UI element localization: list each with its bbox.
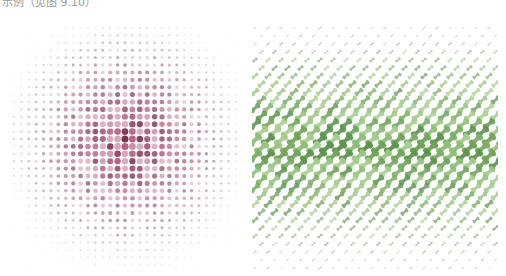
halftone-dot bbox=[235, 138, 237, 140]
bone-tile bbox=[363, 241, 368, 246]
halftone-dot bbox=[35, 160, 38, 163]
bone-tile bbox=[367, 87, 378, 97]
bone-tile bbox=[452, 79, 462, 88]
halftone-dot bbox=[28, 190, 30, 192]
bone-tile bbox=[350, 49, 355, 54]
halftone-dot bbox=[144, 107, 149, 112]
halftone-dot bbox=[174, 129, 179, 134]
bone-tile bbox=[382, 57, 389, 63]
halftone-dot bbox=[27, 160, 30, 163]
bone-tile bbox=[341, 199, 352, 209]
bone-tile bbox=[257, 207, 267, 216]
halftone-dot bbox=[124, 249, 126, 251]
halftone-dot bbox=[94, 34, 96, 36]
halftone-dot bbox=[115, 188, 120, 193]
bone-tile bbox=[460, 57, 467, 63]
halftone-dot bbox=[35, 220, 37, 222]
halftone-dot bbox=[116, 34, 118, 36]
bone-tile bbox=[493, 241, 498, 246]
bone-tile bbox=[296, 79, 306, 88]
bone-tile bbox=[312, 34, 316, 38]
bone-tile bbox=[278, 233, 285, 239]
halftone-dot bbox=[144, 166, 150, 172]
halftone-dot bbox=[85, 114, 90, 119]
halftone-dot bbox=[176, 42, 178, 44]
halftone-dot bbox=[36, 235, 37, 236]
bone-tile bbox=[260, 34, 264, 38]
bone-tile bbox=[383, 26, 387, 30]
halftone-dot bbox=[94, 71, 98, 75]
halftone-dot bbox=[43, 35, 44, 36]
halftone-dot bbox=[13, 160, 15, 162]
halftone-dot bbox=[101, 63, 105, 67]
halftone-dot bbox=[57, 56, 59, 58]
halftone-dot bbox=[42, 93, 45, 96]
halftone-dot bbox=[131, 49, 134, 52]
halftone-dot bbox=[42, 174, 45, 177]
halftone-dot bbox=[205, 145, 209, 149]
bone-tile bbox=[364, 34, 368, 38]
halftone-dot bbox=[138, 41, 141, 44]
halftone-dot bbox=[174, 122, 179, 127]
halftone-dot bbox=[57, 219, 59, 221]
bone-tile bbox=[370, 266, 374, 270]
halftone-dot bbox=[94, 234, 97, 237]
halftone-dot bbox=[93, 204, 97, 208]
bone-tile bbox=[458, 87, 469, 97]
halftone-dot bbox=[71, 107, 75, 111]
bone-tile bbox=[361, 207, 371, 216]
halftone-dot bbox=[221, 28, 222, 29]
halftone-dot bbox=[213, 50, 214, 51]
halftone-dot bbox=[115, 196, 120, 201]
halftone-dot bbox=[28, 264, 29, 265]
halftone-dot bbox=[206, 242, 207, 243]
halftone-dot bbox=[137, 173, 143, 179]
halftone-dot bbox=[21, 86, 23, 88]
halftone-dot bbox=[50, 249, 51, 250]
halftone-dot bbox=[116, 41, 119, 44]
halftone-dot bbox=[190, 227, 192, 229]
halftone-dot bbox=[101, 56, 104, 59]
bone-tile bbox=[393, 199, 404, 209]
halftone-dot bbox=[152, 136, 158, 142]
halftone-dot bbox=[56, 130, 60, 134]
halftone-dot bbox=[235, 108, 237, 110]
halftone-dot bbox=[35, 93, 38, 96]
bone-tile bbox=[370, 42, 374, 46]
bone-tile bbox=[263, 199, 274, 209]
halftone-dot bbox=[58, 35, 59, 36]
halftone-dot bbox=[182, 129, 187, 134]
halftone-dot bbox=[116, 49, 119, 52]
halftone-dot bbox=[108, 196, 113, 201]
halftone-dot bbox=[86, 107, 91, 112]
halftone-dot bbox=[114, 128, 121, 135]
bone-tile bbox=[375, 224, 383, 231]
bone-tile bbox=[265, 233, 272, 239]
bone-tile bbox=[472, 216, 481, 224]
bone-tile bbox=[330, 233, 337, 239]
halftone-dot bbox=[182, 115, 186, 119]
bone-tile bbox=[473, 233, 480, 239]
halftone-dot bbox=[101, 204, 105, 208]
bone-tile bbox=[427, 64, 435, 71]
halftone-dot bbox=[100, 114, 106, 120]
halftone-dot bbox=[228, 197, 230, 199]
halftone-dot bbox=[94, 219, 97, 222]
halftone-dot bbox=[235, 72, 236, 73]
halftone-dot bbox=[198, 71, 201, 74]
halftone-dot bbox=[139, 34, 141, 36]
bone-tile bbox=[329, 72, 338, 80]
bone-tile bbox=[408, 57, 415, 63]
halftone-dot bbox=[213, 235, 214, 236]
halftone-dot bbox=[205, 197, 208, 200]
halftone-dot bbox=[184, 264, 185, 265]
halftone-dot bbox=[93, 85, 97, 89]
halftone-dot bbox=[13, 94, 15, 96]
halftone-dot bbox=[72, 42, 74, 44]
bone-tile bbox=[455, 258, 459, 262]
halftone-dot bbox=[146, 49, 149, 52]
bone-tile bbox=[446, 72, 455, 80]
halftone-dot bbox=[107, 114, 113, 120]
bone-tile bbox=[264, 72, 273, 80]
halftone-dot bbox=[221, 50, 222, 51]
